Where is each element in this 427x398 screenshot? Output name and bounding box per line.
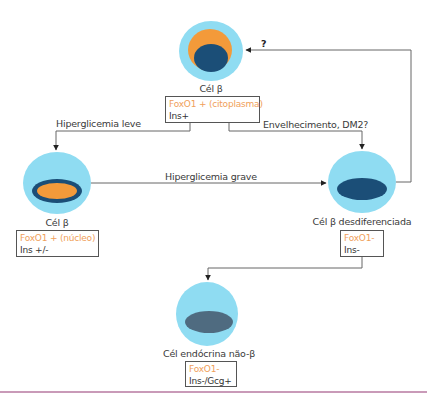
cell-top-ins: Ins+ [169,110,256,122]
cell-left-label: Cél β [45,217,68,228]
bottom-divider [0,391,427,393]
cell-bottom-foxo: FoxO1- [189,363,233,375]
cell-left-ins: Ins +/- [20,244,95,256]
cell-bottom-label: Cél endócrina não-β [163,348,255,359]
cell-bottom-non-beta [176,282,238,346]
cell-top-marker-box: FoxO1 + (citoplasma) Ins+ [165,96,260,123]
cell-right-dedifferentiated [328,151,396,213]
connector-right-to-bottom [208,256,362,280]
cell-bottom-marker-box: FoxO1- Ins-/Gcg+ [185,361,237,387]
edge-label-mild-hyperglycemia: Hiperglicemia leve [56,118,141,129]
cell-right-marker-box: FoxO1- Ins- [340,230,384,257]
cell-top-foxo: FoxO1 + (citoplasma) [169,98,256,110]
cell-bottom-ins: Ins-/Gcg+ [189,375,233,387]
cell-top-label: Cél β [199,83,222,94]
cell-left-beta [23,152,91,214]
cell-left-foxo: FoxO1 + (núcleo) [20,232,95,244]
edge-label-severe-hyperglycemia: Hiperglicemia grave [165,171,257,182]
edge-label-question: ? [261,38,266,49]
cell-right-ins: Ins- [344,244,380,256]
cell-right-label: Cél β desdiferenciada [313,216,412,227]
edge-label-aging-dm2: Envelhecimento, DM2? [263,119,368,130]
cell-top-beta [179,21,243,81]
cell-left-marker-box: FoxO1 + (núcleo) Ins +/- [16,230,99,257]
cell-right-foxo: FoxO1- [344,232,380,244]
diagram-canvas [0,0,427,398]
